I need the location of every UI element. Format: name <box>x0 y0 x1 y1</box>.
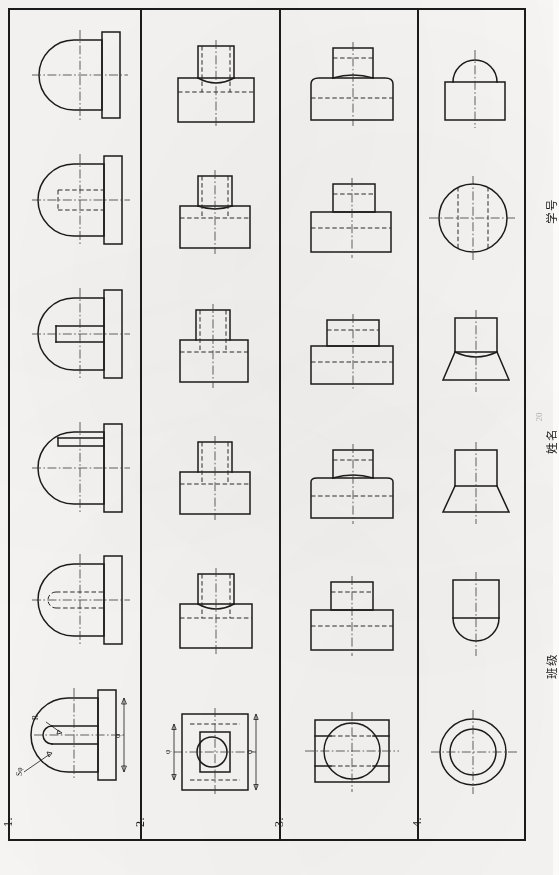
row3-view-3 <box>297 432 409 536</box>
row2-view-6 <box>162 30 270 130</box>
row-number-2: 2. <box>133 817 148 827</box>
problem-row-2: 2. φ <box>142 8 278 841</box>
row4-view-4 <box>429 300 525 404</box>
svg-text:φ: φ <box>163 749 172 754</box>
svg-text:φ: φ <box>113 733 122 738</box>
row3-view-2 <box>297 564 409 668</box>
row-number-4: 4. <box>410 817 425 827</box>
row1-view-2 <box>24 548 134 652</box>
svg-text:R: R <box>31 715 40 720</box>
row1-view-6 <box>24 26 134 126</box>
row2-view-2 <box>162 560 270 660</box>
problem-row-4: 4. <box>419 8 526 841</box>
row-number-3: 3. <box>272 817 287 827</box>
row2-view-5 <box>162 160 270 260</box>
row4-view-1 <box>425 700 525 804</box>
row4-view-5 <box>425 166 525 270</box>
row4-view-3 <box>429 432 525 536</box>
row2-view-3 <box>162 426 270 526</box>
row3-view-6 <box>297 32 409 136</box>
class-label: 班级 <box>543 653 559 679</box>
row1-view-4 <box>24 280 134 388</box>
row3-view-4 <box>297 298 409 402</box>
row3-view-5 <box>297 166 409 270</box>
row1-view-3 <box>24 416 134 520</box>
row4-view-2 <box>429 564 525 670</box>
svg-text:φ: φ <box>245 749 254 754</box>
row1-view-5 <box>24 148 134 252</box>
name-label: 姓名 <box>543 428 559 454</box>
svg-text:Sφ: Sφ <box>15 767 24 776</box>
row-number-1: 1. <box>1 817 16 827</box>
problem-row-1: 1. R Sφ <box>10 8 140 841</box>
student-id-label: 学号 <box>543 198 559 224</box>
row2-view-1-dimensioned: φ φ <box>156 698 272 806</box>
row4-view-6 <box>427 34 525 138</box>
row1-view-1-dimensioned: R Sφ φ <box>16 680 134 790</box>
page-number: 20 <box>534 413 544 422</box>
problem-row-3: 3. <box>281 8 417 841</box>
row2-view-4 <box>162 294 270 394</box>
row3-view-1 <box>293 698 411 806</box>
